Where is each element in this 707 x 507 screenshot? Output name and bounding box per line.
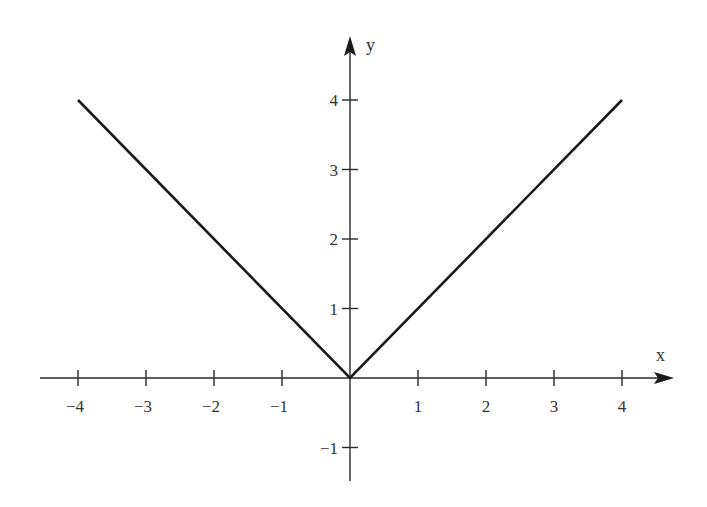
y-tick-label: 4 (330, 91, 339, 110)
x-tick-label: −3 (134, 397, 152, 416)
x-ticks: −4−3−2−11234 (66, 370, 627, 416)
x-axis-label: x (656, 345, 665, 365)
x-tick-label: 3 (550, 397, 559, 416)
x-tick-label: −4 (66, 397, 85, 416)
y-axis-label: y (366, 35, 375, 55)
chart: x y −4−3−2−11234 −11234 (0, 0, 707, 507)
y-ticks: −11234 (320, 91, 358, 458)
y-tick-label: 1 (330, 300, 339, 319)
x-tick-label: 1 (414, 397, 423, 416)
x-tick-label: 2 (482, 397, 491, 416)
y-tick-label: 2 (330, 230, 339, 249)
y-tick-label: 3 (330, 161, 339, 180)
x-tick-label: −1 (270, 397, 288, 416)
y-tick-label: −1 (320, 439, 338, 458)
x-tick-label: −2 (202, 397, 220, 416)
x-tick-label: 4 (618, 397, 627, 416)
